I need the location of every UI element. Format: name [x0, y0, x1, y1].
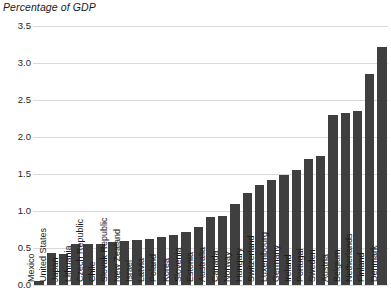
bar[interactable]	[255, 185, 264, 285]
x-axis-line	[33, 285, 388, 286]
bar-slot[interactable]: Finland	[365, 26, 374, 285]
bar-slot[interactable]: Latvia	[145, 26, 154, 285]
bar[interactable]	[194, 227, 203, 285]
bar[interactable]	[96, 244, 105, 285]
bar[interactable]	[243, 193, 252, 286]
bar-slot[interactable]: Japan	[59, 26, 68, 285]
bar-slot[interactable]: Luxembourg	[267, 26, 276, 285]
bar-slot[interactable]: Czech Republic	[83, 26, 92, 285]
bar[interactable]	[108, 242, 117, 285]
bar[interactable]	[132, 240, 141, 285]
bar[interactable]	[59, 254, 68, 285]
bar[interactable]	[120, 241, 129, 285]
bar-series: MexicoUnited StatesJapanLithuaniaCzech R…	[33, 26, 388, 285]
bar[interactable]	[328, 115, 337, 285]
bar[interactable]	[304, 159, 313, 285]
bar[interactable]	[181, 232, 190, 285]
bar-slot[interactable]: Sweden	[316, 26, 325, 285]
bar[interactable]	[206, 217, 215, 285]
bar[interactable]	[341, 113, 350, 285]
bar-slot[interactable]: Hungary	[243, 26, 252, 285]
y-axis-tick-label: 1.5	[5, 168, 31, 179]
bar[interactable]	[145, 239, 154, 285]
bar-slot[interactable]: Norway	[230, 26, 239, 285]
bar[interactable]	[267, 180, 276, 285]
bar-slot[interactable]: Chile	[96, 26, 105, 285]
y-axis-tick-label: 0.5	[5, 242, 31, 253]
bar-slot[interactable]: Lithuania	[71, 26, 80, 285]
bar[interactable]	[71, 244, 80, 285]
bar-slot[interactable]: Estonia	[194, 26, 203, 285]
bar-slot[interactable]: Belgium	[341, 26, 350, 285]
bar-slot[interactable]: Slovenia	[181, 26, 190, 285]
bar-slot[interactable]: Ireland	[292, 26, 301, 285]
bar-slot[interactable]: Mexico	[34, 26, 43, 285]
bar-slot[interactable]: Poland	[157, 26, 166, 285]
bar-slot[interactable]: Slovak Republic	[108, 26, 117, 285]
bar-slot[interactable]: Denmark	[377, 26, 386, 285]
bar[interactable]	[230, 204, 239, 285]
bar[interactable]	[169, 235, 178, 285]
y-axis-tick-label: 3.0	[5, 57, 31, 68]
bar-slot[interactable]: Germany	[279, 26, 288, 285]
bar[interactable]	[365, 74, 374, 285]
y-axis-tick-label: 1.0	[5, 205, 31, 216]
y-axis-tick-label: 3.5	[5, 20, 31, 31]
bar[interactable]	[353, 111, 362, 285]
chart-title: Percentage of GDP	[3, 1, 96, 13]
bar-slot[interactable]: New Zealand	[120, 26, 129, 285]
bar-slot[interactable]: Portugal	[304, 26, 313, 285]
bar-slot[interactable]: Canada	[218, 26, 227, 285]
bar-slot[interactable]: Netherlands	[353, 26, 362, 285]
bar-slot[interactable]: Switzerland	[255, 26, 264, 285]
bar-slot[interactable]: Austria	[328, 26, 337, 285]
bar[interactable]	[279, 175, 288, 285]
bar-slot[interactable]: United States	[47, 26, 56, 285]
bar[interactable]	[157, 237, 166, 285]
bar[interactable]	[83, 244, 92, 285]
bar[interactable]	[218, 216, 227, 285]
bar[interactable]	[292, 170, 301, 285]
y-axis-tick-label: 2.5	[5, 94, 31, 105]
bar-slot[interactable]: Australia	[206, 26, 215, 285]
bar[interactable]	[47, 253, 56, 285]
bar[interactable]	[377, 47, 386, 285]
y-axis-tick-label: 0.0	[5, 279, 31, 290]
bar-slot[interactable]: Korea	[169, 26, 178, 285]
chart-container: Percentage of GDP 0.00.51.01.52.02.53.03…	[0, 0, 391, 305]
y-axis: 0.00.51.01.52.02.53.03.5	[0, 26, 31, 285]
y-axis-tick-label: 2.0	[5, 131, 31, 142]
bar-slot[interactable]: Israel	[132, 26, 141, 285]
bar[interactable]	[316, 156, 325, 286]
